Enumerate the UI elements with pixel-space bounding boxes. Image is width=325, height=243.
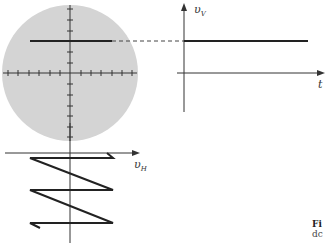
horizontal-voltage-graph: [5, 123, 140, 243]
vertical-voltage-label: υV: [194, 4, 206, 18]
figure-caption: Fi dc: [312, 220, 323, 240]
vertical-voltage-graph: [177, 3, 325, 112]
sawtooth-trace: [30, 153, 113, 228]
t-axis-arrow-icon: [317, 70, 325, 76]
horizontal-voltage-label: υH: [134, 159, 147, 173]
vh-axis-arrow-icon: [132, 150, 140, 156]
v-axis-arrow-icon: [181, 3, 187, 11]
oscilloscope-diagram: [0, 0, 325, 243]
time-axis-label: t: [318, 79, 322, 90]
